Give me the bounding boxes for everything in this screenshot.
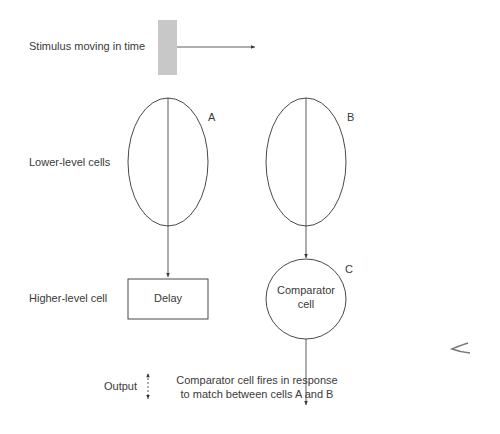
lower-level-label: Lower-level cells (29, 156, 110, 169)
caption-line1: Comparator cell fires in response (157, 374, 357, 387)
caption-line2: to match between cells A and B (157, 388, 357, 401)
output-label: Output (104, 380, 137, 393)
cell-a-letter: A (208, 111, 215, 124)
stimulus-bar (158, 20, 177, 75)
stimulus-label: Stimulus moving in time (29, 40, 145, 53)
comparator-label-line2: cell (266, 298, 346, 311)
comparator-label-line1: Comparator (266, 284, 346, 297)
stray-mark (452, 343, 470, 353)
diagram-canvas (0, 0, 500, 434)
cell-b-letter: B (347, 111, 354, 124)
delay-label: Delay (128, 292, 208, 305)
higher-level-label: Higher-level cell (29, 292, 107, 305)
cell-c-letter: C (345, 263, 353, 276)
